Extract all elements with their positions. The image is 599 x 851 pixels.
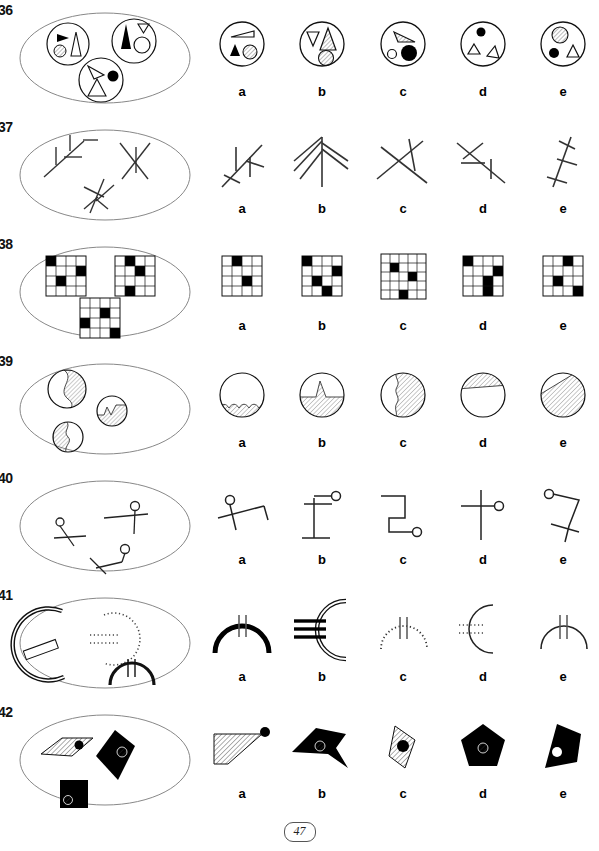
row-number: 39 <box>0 353 13 369</box>
puzzle-row-36: 36 <box>0 0 599 117</box>
option-label: d <box>447 201 519 216</box>
stem-figure-41 <box>18 593 193 693</box>
row-number: 40 <box>0 470 13 486</box>
option-37-c[interactable]: c <box>367 121 439 229</box>
option-label: a <box>206 786 278 801</box>
option-label: b <box>286 669 358 684</box>
option-label: e <box>527 84 599 99</box>
option-40-b[interactable]: b <box>286 472 358 580</box>
page-number-value: 47 <box>284 822 316 842</box>
option-39-e[interactable]: e <box>527 355 599 463</box>
option-label: d <box>447 84 519 99</box>
row-number: 36 <box>0 2 13 18</box>
option-label: b <box>286 201 358 216</box>
worksheet-page: 36 <box>0 0 599 851</box>
option-label: e <box>527 435 599 450</box>
option-36-a[interactable]: a <box>206 4 278 112</box>
option-label: c <box>367 552 439 567</box>
option-label: d <box>447 786 519 801</box>
puzzle-row-41: 41 <box>0 585 599 702</box>
stem-figure-38 <box>18 242 193 342</box>
options-row-41: a b c <box>200 589 599 697</box>
option-41-d[interactable]: d <box>447 589 519 697</box>
option-36-c[interactable]: c <box>367 4 439 112</box>
option-label: a <box>206 84 278 99</box>
option-38-b[interactable]: b <box>286 238 358 346</box>
option-39-a[interactable]: a <box>206 355 278 463</box>
row-number: 42 <box>0 704 13 720</box>
option-label: a <box>206 669 278 684</box>
option-42-c[interactable]: c <box>367 706 439 814</box>
stem-figure-36 <box>18 8 193 108</box>
option-38-d[interactable]: d <box>447 238 519 346</box>
option-37-d[interactable]: d <box>447 121 519 229</box>
option-40-d[interactable]: d <box>447 472 519 580</box>
puzzle-row-37: 37 <box>0 117 599 234</box>
options-row-39: a b <box>200 355 599 463</box>
stem-figure-39 <box>18 359 193 459</box>
option-41-b[interactable]: b <box>286 589 358 697</box>
row-number: 38 <box>0 236 13 252</box>
option-37-a[interactable]: a <box>206 121 278 229</box>
option-label: e <box>527 669 599 684</box>
puzzle-row-42: 42 a <box>0 702 599 819</box>
option-label: e <box>527 786 599 801</box>
option-41-c[interactable]: c <box>367 589 439 697</box>
option-36-e[interactable]: e <box>527 4 599 112</box>
options-row-40: a b c <box>200 472 599 580</box>
option-label: d <box>447 669 519 684</box>
option-36-d[interactable]: d <box>447 4 519 112</box>
option-label: a <box>206 201 278 216</box>
option-label: c <box>367 318 439 333</box>
option-label: b <box>286 552 358 567</box>
option-40-c[interactable]: c <box>367 472 439 580</box>
option-38-c[interactable]: c <box>367 238 439 346</box>
option-label: d <box>447 435 519 450</box>
option-label: d <box>447 318 519 333</box>
option-label: b <box>286 786 358 801</box>
option-label: a <box>206 318 278 333</box>
option-38-e[interactable]: e <box>527 238 599 346</box>
option-37-b[interactable]: b <box>286 121 358 229</box>
option-label: a <box>206 435 278 450</box>
option-label: e <box>527 552 599 567</box>
puzzle-row-40: 40 <box>0 468 599 585</box>
option-41-a[interactable]: a <box>206 589 278 697</box>
row-number: 41 <box>0 587 13 603</box>
option-40-a[interactable]: a <box>206 472 278 580</box>
puzzle-row-39: 39 <box>0 351 599 468</box>
options-row-38: a b <box>200 238 599 346</box>
options-row-42: a b c d <box>200 706 599 814</box>
option-42-e[interactable]: e <box>527 706 599 814</box>
option-label: d <box>447 552 519 567</box>
option-label: b <box>286 84 358 99</box>
options-row-36: a b c <box>200 4 599 112</box>
puzzle-row-38: 38 <box>0 234 599 351</box>
option-label: e <box>527 201 599 216</box>
option-label: e <box>527 318 599 333</box>
option-label: c <box>367 786 439 801</box>
option-39-d[interactable]: d <box>447 355 519 463</box>
option-label: c <box>367 435 439 450</box>
option-38-a[interactable]: a <box>206 238 278 346</box>
option-40-e[interactable]: e <box>527 472 599 580</box>
option-42-a[interactable]: a <box>206 706 278 814</box>
option-41-e[interactable]: e <box>527 589 599 697</box>
option-label: c <box>367 669 439 684</box>
option-39-c[interactable]: c <box>367 355 439 463</box>
options-row-37: a b <box>200 121 599 229</box>
row-number: 37 <box>0 119 13 135</box>
option-label: a <box>206 552 278 567</box>
option-label: b <box>286 318 358 333</box>
option-label: c <box>367 84 439 99</box>
stem-figure-42 <box>18 710 193 810</box>
option-42-d[interactable]: d <box>447 706 519 814</box>
option-36-b[interactable]: b <box>286 4 358 112</box>
option-39-b[interactable]: b <box>286 355 358 463</box>
page-number: 47 <box>0 821 599 842</box>
option-37-e[interactable]: e <box>527 121 599 229</box>
option-42-b[interactable]: b <box>286 706 358 814</box>
stem-figure-40 <box>18 476 193 576</box>
option-label: b <box>286 435 358 450</box>
option-label: c <box>367 201 439 216</box>
